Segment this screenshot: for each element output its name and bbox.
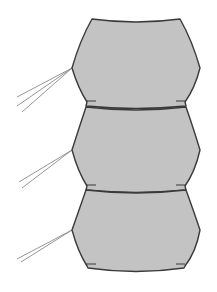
diagram-svg (0, 0, 217, 292)
seta-line (21, 230, 72, 262)
seta-line (19, 150, 72, 182)
segment-body (72, 107, 200, 193)
setae-1 (17, 68, 72, 112)
seta-line (17, 68, 72, 106)
segmented-diagram (0, 0, 217, 292)
seta-line (22, 150, 72, 188)
setae-2 (19, 150, 72, 188)
segment-1 (17, 19, 200, 112)
seta-line (17, 230, 72, 259)
segment-body (72, 19, 200, 109)
segment-3 (17, 190, 200, 272)
segment-body (72, 190, 200, 272)
setae-3 (17, 230, 72, 262)
segment-2 (19, 107, 200, 193)
